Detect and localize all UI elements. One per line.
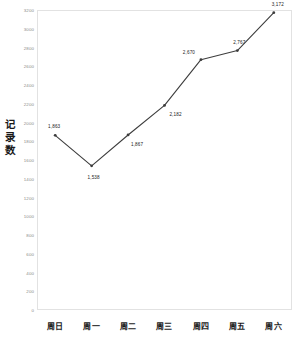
x-axis-tick-labels: 周日周一周二周三周四周五周六 [0,0,301,351]
x-tick-label: 周五 [229,320,246,331]
line-chart: 记录数 020040060080010001200140016001800200… [0,0,301,351]
x-tick-label: 周六 [265,320,282,331]
x-tick-label: 周三 [156,320,173,331]
x-tick-label: 周日 [47,320,64,331]
x-tick-label: 周四 [193,320,210,331]
x-tick-label: 周一 [83,320,100,331]
x-tick-label: 周二 [120,320,137,331]
